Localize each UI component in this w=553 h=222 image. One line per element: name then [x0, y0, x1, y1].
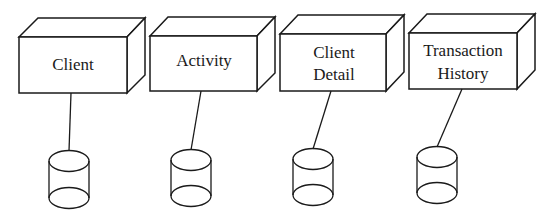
connector-line: [69, 93, 71, 151]
datastore-cylinder-icon: [417, 147, 457, 204]
node-top-face: [409, 14, 535, 33]
node-label: Activity: [176, 51, 232, 70]
node-label: Client: [52, 55, 94, 74]
diagram-canvas: Client Activity Client Detail: [0, 0, 553, 222]
connector-line: [191, 91, 201, 150]
node-client: Client: [19, 18, 145, 93]
connector-line: [437, 89, 462, 147]
node-label-line1: Client: [313, 43, 355, 62]
node-top-face: [150, 17, 275, 36]
node-top-face: [280, 15, 404, 34]
connector-line: [313, 91, 331, 149]
node-activity: Activity: [150, 17, 275, 91]
datastore-cylinder-icon: [171, 150, 211, 207]
node-top-face: [19, 18, 145, 37]
datastore-cylinder-icon: [293, 149, 333, 206]
datastore-cylinder-icon: [49, 151, 89, 209]
node-label-line2: Detail: [313, 65, 355, 84]
node-client-detail: Client Detail: [280, 15, 404, 91]
node-label-line2: History: [438, 64, 490, 83]
node-label-line1: Transaction: [423, 41, 503, 60]
node-transaction-history: Transaction History: [409, 14, 535, 89]
